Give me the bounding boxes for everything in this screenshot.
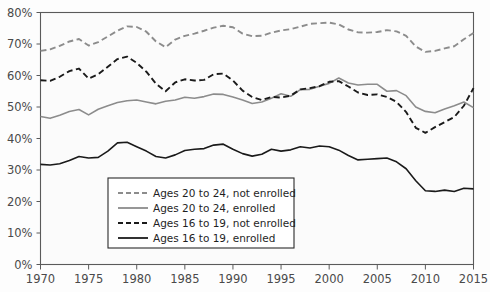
y-axis-ticks: 0%10%20%30%40%50%60%70%80% [7, 6, 41, 272]
legend-label-1: Ages 20 to 24, enrolled [153, 202, 275, 214]
x-tick-label: 1985 [170, 272, 199, 286]
x-axis-ticks: 1970197519801985199019952000200520102015 [26, 265, 488, 286]
y-tick-label: 80% [7, 6, 33, 20]
legend-label-0: Ages 20 to 24, not enrolled [153, 187, 296, 199]
line-chart: 0%10%20%30%40%50%60%70%80% 1970197519801… [0, 0, 490, 292]
x-tick-label: 1975 [74, 272, 103, 286]
y-tick-label: 0% [14, 258, 32, 272]
legend-label-2: Ages 16 to 19, not enrolled [153, 217, 296, 229]
chart-container: 0%10%20%30%40%50%60%70%80% 1970197519801… [0, 0, 490, 292]
chart-legend: Ages 20 to 24, not enrolledAges 20 to 24… [108, 178, 296, 248]
y-tick-label: 50% [7, 100, 33, 114]
x-tick-label: 2005 [363, 272, 392, 286]
y-tick-label: 70% [7, 37, 33, 51]
legend-label-3: Ages 16 to 19, enrolled [153, 232, 275, 244]
x-tick-label: 2010 [411, 272, 440, 286]
x-tick-label: 2000 [315, 272, 344, 286]
x-tick-label: 1980 [122, 272, 151, 286]
y-tick-label: 20% [7, 195, 33, 209]
x-tick-label: 1995 [266, 272, 295, 286]
y-tick-label: 10% [7, 226, 33, 240]
x-tick-label: 2015 [459, 272, 488, 286]
y-tick-label: 60% [7, 69, 33, 83]
y-tick-label: 30% [7, 163, 33, 177]
x-tick-label: 1990 [218, 272, 247, 286]
y-tick-label: 40% [7, 132, 33, 146]
x-tick-label: 1970 [26, 272, 55, 286]
